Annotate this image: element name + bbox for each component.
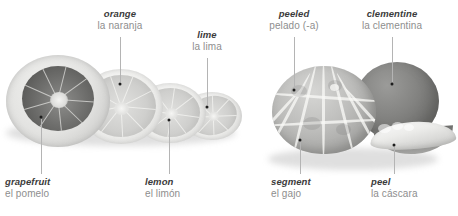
callout-grapefruit-es: el pomelo (5, 188, 50, 200)
callout-peel-es: la cáscara (371, 188, 418, 200)
leader-peeled (294, 37, 295, 88)
marker-peeled (293, 89, 296, 92)
leader-lemon (169, 122, 170, 174)
callout-segment: segment el gajo (271, 176, 311, 200)
callout-lemon-es: el limón (145, 188, 180, 200)
leader-lime (207, 58, 208, 105)
callout-lemon-en: lemon (145, 176, 180, 187)
callout-segment-en: segment (271, 176, 311, 187)
callout-grapefruit-en: grapefruit (5, 176, 50, 187)
marker-orange (119, 83, 122, 86)
leader-peel (394, 147, 395, 174)
callout-peeled: peeled pelado (-a) (269, 8, 318, 32)
callout-lime: lime la lima (192, 29, 222, 53)
callout-orange-en: orange (98, 8, 143, 19)
leader-orange (120, 37, 121, 82)
leader-grapefruit (41, 119, 42, 174)
leader-clementine (392, 37, 393, 82)
callout-orange: orange la naranja (98, 8, 143, 32)
marker-clementine (391, 83, 394, 86)
callout-peeled-en: peeled (269, 8, 318, 19)
callout-peel: peel la cáscara (371, 176, 418, 200)
figure-canvas: orange la naranja lime la lima peeled pe… (0, 0, 458, 216)
callout-clementine: clementine la clementina (362, 8, 422, 32)
callout-grapefruit: grapefruit el pomelo (5, 176, 50, 200)
callout-lime-en: lime (192, 29, 222, 40)
callout-orange-es: la naranja (98, 20, 143, 32)
callout-peeled-es: pelado (-a) (269, 20, 318, 32)
leader-segment (300, 142, 301, 174)
callout-clementine-es: la clementina (362, 20, 422, 32)
callout-lemon: lemon el limón (145, 176, 180, 200)
callout-segment-es: el gajo (271, 188, 311, 200)
callout-peel-en: peel (371, 176, 418, 187)
callout-lime-es: la lima (192, 41, 222, 53)
marker-lime (206, 106, 209, 109)
callout-clementine-en: clementine (362, 8, 422, 19)
